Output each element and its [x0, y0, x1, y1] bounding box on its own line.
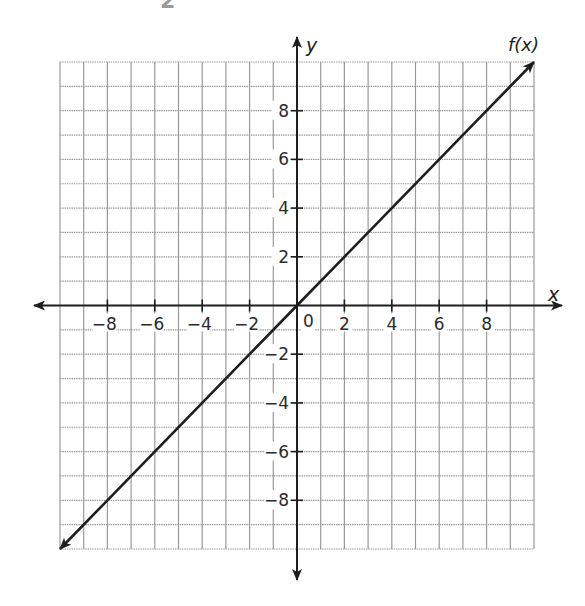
- x-tick-label: 4: [386, 314, 397, 334]
- y-tick-label: −2: [264, 344, 289, 364]
- axes: [34, 37, 562, 580]
- y-tick-label: −8: [264, 490, 289, 510]
- y-tick-label: 4: [278, 198, 289, 218]
- x-tick-label: 6: [434, 314, 445, 334]
- x-tick-label: −8: [92, 314, 117, 334]
- y-tick-label: 6: [278, 149, 289, 169]
- cropped-text-fragment: 2: [160, 0, 175, 13]
- function-label: f(x): [508, 34, 539, 55]
- y-tick-label: −6: [264, 442, 289, 462]
- x-tick-label: −2: [234, 314, 259, 334]
- y-tick-label: 2: [278, 247, 289, 267]
- x-tick-label: −6: [139, 314, 164, 334]
- y-tick-label: −4: [264, 393, 289, 413]
- origin-label: 0: [303, 311, 314, 331]
- y-axis-label: y: [305, 34, 318, 56]
- x-tick-label: −4: [187, 314, 212, 334]
- coordinate-plane: 2 −8−6−4−224688642−2−4−6−8 y x f(x) 0: [0, 0, 585, 606]
- y-tick-label: 8: [278, 101, 289, 121]
- x-tick-label: 8: [481, 314, 492, 334]
- x-axis-label: x: [547, 283, 560, 305]
- coordinate-plane-figure: 2 −8−6−4−224688642−2−4−6−8 y x f(x) 0: [0, 0, 585, 606]
- x-tick-label: 2: [339, 314, 350, 334]
